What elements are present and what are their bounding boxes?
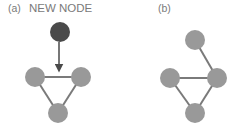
- new-node: [50, 22, 70, 42]
- node-b: [160, 68, 180, 88]
- node-b: [207, 68, 227, 88]
- node-a: [48, 103, 68, 123]
- node-b: [185, 30, 205, 50]
- node-b: [185, 103, 205, 123]
- graph-diagram: [0, 0, 235, 127]
- node-a: [25, 67, 45, 87]
- node-a: [71, 67, 91, 87]
